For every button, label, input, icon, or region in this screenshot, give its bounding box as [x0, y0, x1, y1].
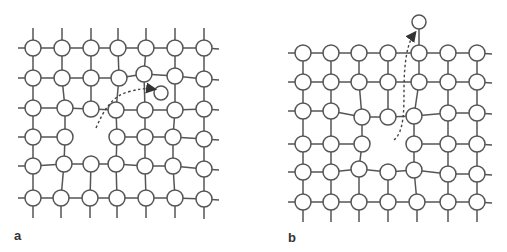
atom-node [83, 70, 99, 86]
atom-node [323, 194, 339, 210]
lattice-diagram [0, 0, 507, 252]
atom-node [25, 190, 41, 206]
atom-node [196, 101, 212, 117]
atom-node [409, 194, 425, 210]
atom-node [167, 68, 183, 84]
atom-node [411, 45, 427, 61]
atom-node [406, 108, 422, 124]
atom-node [109, 190, 125, 206]
atom-node [196, 40, 212, 56]
atom-node [138, 190, 154, 206]
atom-node [469, 74, 485, 90]
atom-node [469, 45, 485, 61]
atom-node [82, 190, 98, 206]
atom-node [54, 70, 70, 86]
atom-node [380, 194, 396, 210]
atom-node [295, 194, 311, 210]
atom-node [295, 164, 311, 180]
atom-node [323, 45, 339, 61]
atom-node [167, 190, 183, 206]
atom-node [351, 45, 367, 61]
atom-node [196, 131, 212, 147]
atom-node [83, 40, 99, 56]
atom-node [137, 102, 153, 118]
atom-node [196, 71, 212, 87]
atom-node [440, 136, 456, 152]
atom-node [380, 164, 396, 180]
atom-node [110, 40, 126, 56]
panel-label-b: b [288, 230, 296, 245]
panel-a-lattice [18, 28, 219, 219]
atom-node [54, 40, 70, 56]
atom-node [380, 109, 396, 125]
atom-node [295, 136, 311, 152]
atom-node [295, 74, 311, 90]
atom-node [351, 161, 367, 177]
atom-node [108, 156, 124, 172]
displaced-atom-node [412, 15, 426, 29]
atom-node [25, 158, 41, 174]
atom-node [380, 45, 396, 61]
atom-node [25, 40, 41, 56]
atom-node [323, 74, 339, 90]
atom-node [25, 70, 41, 86]
atom-node [165, 158, 181, 174]
atom-node [136, 66, 152, 82]
atom-node [165, 129, 181, 145]
atom-node [196, 161, 212, 177]
atom-node [57, 100, 73, 116]
atom-node [351, 194, 367, 210]
atom-node [83, 101, 99, 117]
atom-node [440, 105, 456, 121]
atom-node [469, 166, 485, 182]
atom-node [53, 190, 69, 206]
panel-label-a: a [14, 228, 21, 243]
atom-node [56, 156, 72, 172]
atom-node [83, 156, 99, 172]
atom-node [406, 136, 422, 152]
atom-node [108, 102, 124, 118]
atom-node [469, 105, 485, 121]
atom-node [196, 191, 212, 207]
atom-node [440, 45, 456, 61]
atom-node [351, 74, 367, 90]
atom-node [469, 136, 485, 152]
atom-node [380, 74, 396, 90]
atom-node [137, 158, 153, 174]
atom-node [167, 40, 183, 56]
atom-node [323, 164, 339, 180]
atom-node [469, 194, 485, 210]
atom-node [411, 74, 427, 90]
atom-node [354, 136, 370, 152]
atom-node [354, 109, 370, 125]
atom-node [57, 129, 73, 145]
atom-node [111, 70, 127, 86]
atom-node [440, 166, 456, 182]
atoms [295, 15, 485, 210]
atom-node [109, 129, 125, 145]
displaced-atom-node [154, 86, 168, 100]
atom-node [138, 40, 154, 56]
atom-node [137, 129, 153, 145]
atom-node [25, 100, 41, 116]
atom-node [167, 102, 183, 118]
atom-node [295, 103, 311, 119]
atom-node [406, 162, 422, 178]
atom-node [25, 129, 41, 145]
atom-node [440, 194, 456, 210]
atom-node [323, 103, 339, 119]
atom-node [440, 74, 456, 90]
atom-node [295, 45, 311, 61]
panel-b-lattice [288, 15, 492, 222]
atom-node [323, 136, 339, 152]
